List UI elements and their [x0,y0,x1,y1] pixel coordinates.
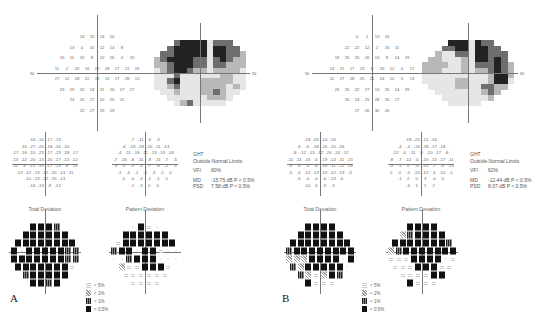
total-deviation-value: -9 [22,163,26,168]
total-deviation-probability-symbol [38,272,44,279]
total-deviation-probability-symbol [21,251,22,252]
total-deviation-value: -5 [288,169,292,174]
total-deviation-value: -13 [308,150,314,155]
total-deviation-probability-symbol [286,256,292,263]
total-deviation-probability-symbol [329,264,335,271]
threshold-value: 17 [410,65,415,70]
pattern-deviation-probability-symbol [155,281,159,285]
total-deviation-value: -13 [38,156,44,161]
total-deviation-value: -15 [347,156,353,161]
total-deviation-value: -5 [322,182,326,187]
pattern-deviation-probability-symbol [139,273,143,277]
threshold-value: 13 [375,55,380,60]
legend-swatch-icon [86,290,91,296]
total-deviation-probability-symbol [337,264,343,271]
total-deviation-probability-symbol [54,272,60,279]
pattern-deviation-value: -5 [440,176,444,181]
total-deviation-probability-symbol [347,267,348,268]
pattern-deviation-probability-symbol [416,281,420,285]
total-deviation-value: -6 [339,176,343,181]
stats-row: PSD7.58 dB P < 0.5% [193,183,254,190]
pattern-deviation-value: -3 [173,163,177,168]
total-deviation-probability-symbol [73,248,79,255]
total-deviation-probability-symbol [38,280,44,287]
total-deviation-value: -16 [330,137,336,142]
pattern-deviation-value: -1 [449,169,453,174]
pattern-deviation-probability-symbol [113,259,114,260]
threshold-value: 11 [70,55,74,60]
total-deviation-value: -13 [33,176,39,181]
panel-letter: A [10,292,18,304]
pattern-deviation-probability-symbol [388,248,394,255]
total-deviation-probability-symbol [337,240,343,247]
pattern-deviation-probability-symbol [121,259,122,260]
total-deviation-value: -28 [63,150,69,155]
threshold-value: 25 [100,107,105,112]
pattern-deviation-probability-symbol [119,264,125,271]
threshold-value: 12 [365,44,370,49]
total-deviation-value: -4 [305,163,309,168]
threshold-value: 12 [390,65,395,70]
total-deviation-probability-symbol [70,265,74,269]
pattern-deviation-probability-symbol [424,281,428,285]
total-deviation-probability-symbol [343,259,344,260]
total-deviation-probability-symbol [305,240,311,247]
pattern-deviation-probability-symbol [131,273,135,277]
total-deviation-value: -20 [46,156,52,161]
pattern-deviation-probability-symbol [392,240,398,247]
pattern-deviation-value: -12 [405,156,411,161]
pattern-deviation-probability-symbol [159,249,163,253]
legend-item: < 0.5% [362,305,384,313]
pattern-deviation-value: -13 [150,150,156,155]
total-deviation-probability-symbol [58,248,64,255]
threshold-value: 19 [405,55,410,60]
threshold-value: 5 [401,76,403,81]
total-deviation-probability-symbol [294,256,300,263]
pattern-deviation-value: -1 [160,169,164,174]
grayscale-cell [187,100,194,106]
threshold-value: 26 [345,86,350,91]
pattern-deviation-probability-symbol [158,264,164,271]
total-deviation-probability-symbol [50,248,56,255]
grayscale-cell [428,84,435,90]
pattern-deviation-probability-symbol [415,264,421,271]
threshold-value: 22 [345,44,350,49]
threshold-value: 26 [80,97,85,102]
total-deviation-probability-symbol [62,264,68,271]
total-deviation-value: -13 [16,169,22,174]
total-deviation-probability-symbol [290,264,296,271]
pattern-deviation-probability-symbol [439,272,445,279]
total-deviation-value: -12 [72,156,78,161]
grayscale-cell [501,84,508,90]
total-deviation-value: -11 [68,169,74,174]
pattern-deviation-value: -20 [146,143,152,148]
pattern-deviation-probability-symbol [139,281,143,285]
grayscale-cell [475,100,482,106]
total-deviation-probability-symbol [330,281,334,285]
pattern-deviation-probability-symbol [126,256,132,263]
pattern-deviation-value: 0 [416,176,418,181]
pattern-deviation-value: -6 [415,163,419,168]
threshold-value: 13 [70,44,75,49]
stats-ght-value: Outside Normal Limits [193,158,242,165]
pattern-deviation-value: -3 [173,156,177,161]
total-deviation-probability-symbol [65,248,71,255]
threshold-value: 13 [410,76,415,81]
pattern-deviation-probability-symbol [116,241,120,245]
total-deviation-probability-symbol [333,256,339,263]
total-deviation-probability-symbol [305,224,311,231]
pattern-deviation-probability-symbol [156,227,157,228]
threshold-value: 2 [66,65,68,70]
total-deviation-probability-symbol [305,232,311,239]
pattern-deviation-probability-symbol [442,248,448,255]
legend-swatch-icon [86,298,91,304]
total-deviation-probability-symbol [26,256,32,263]
pattern-deviation-value: -3 [143,169,147,174]
stats-psd-value: 7.58 dB P < 0.5% [211,183,251,190]
total-deviation-probability-symbol [42,256,48,263]
pattern-deviation-probability-symbol [138,232,144,239]
threshold-value: 27 [340,76,345,81]
total-deviation-probability-symbol [38,224,44,231]
total-deviation-value: -8 [293,150,297,155]
threshold-value: 26 [385,107,390,112]
